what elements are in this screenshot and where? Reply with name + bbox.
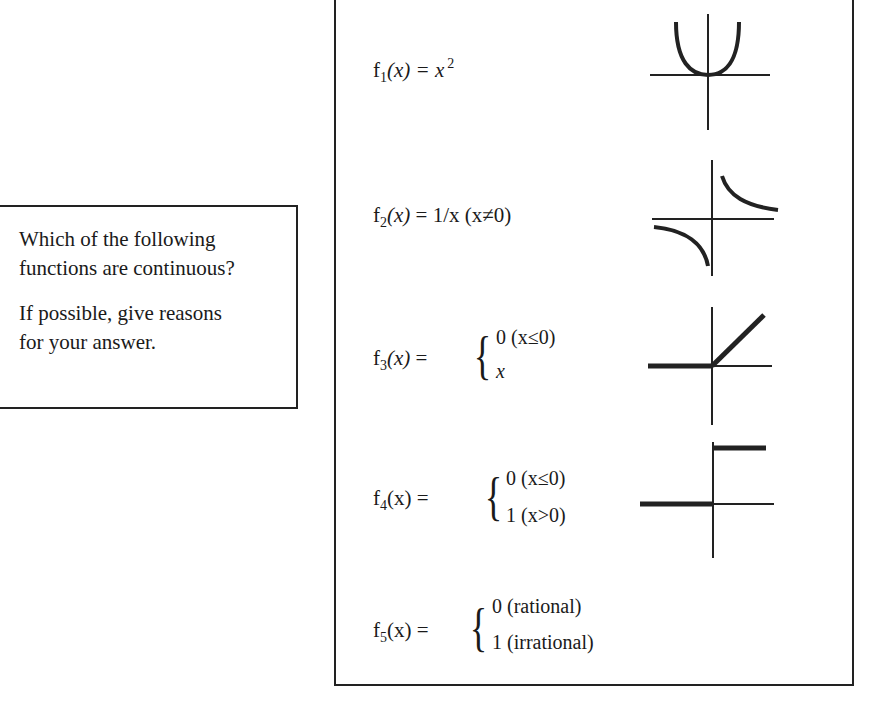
function-arg: (x) xyxy=(387,203,410,227)
function-index: 1 xyxy=(380,70,387,85)
function-name: f xyxy=(373,618,380,642)
instruction-line-2: for your answer. xyxy=(19,330,156,354)
function-arg: (x) xyxy=(387,618,412,642)
question-line-2: functions are continuous? xyxy=(19,256,235,280)
function-index: 3 xyxy=(380,358,387,373)
function-index: 5 xyxy=(380,630,387,645)
function-index: 4 xyxy=(380,498,387,513)
instruction-text: If possible, give reasons for your answe… xyxy=(19,299,222,357)
parabola-graph xyxy=(646,12,776,132)
case-f4-2: 1 (x>0) xyxy=(506,504,566,527)
function-arg: (x) xyxy=(387,58,410,82)
case-f4-1: 0 (x≤0) xyxy=(506,467,565,490)
step-graph xyxy=(636,438,786,563)
question-text: Which of the following functions are con… xyxy=(19,225,235,283)
function-arg: (x) xyxy=(387,486,412,510)
case-f5-2: 1 (irrational) xyxy=(492,631,594,654)
function-index: 2 xyxy=(380,215,387,230)
function-name: f xyxy=(373,58,380,82)
function-f2: f2(x) = 1/x (x≠0) xyxy=(373,203,511,228)
case-f5-1: 0 (rational) xyxy=(492,595,581,618)
function-rhs: = xyxy=(417,618,429,642)
question-box: Which of the following functions are con… xyxy=(0,205,298,409)
function-f5: f5(x) = xyxy=(373,618,429,643)
function-rhs: = x xyxy=(416,58,445,82)
function-rhs: = 1/x (x≠0) xyxy=(416,203,512,227)
hyperbola-graph xyxy=(646,158,786,278)
function-name: f xyxy=(373,346,380,370)
function-name: f xyxy=(373,203,380,227)
function-f1: f1(x) = x2 xyxy=(373,58,454,83)
functions-box: f1(x) = x2 f2(x) = 1/x (x≠0) f3(x) = { 0… xyxy=(334,0,854,686)
function-f4: f4(x) = xyxy=(373,486,429,511)
function-rhs: = xyxy=(416,346,428,370)
case-f3-1: 0 (x≤0) xyxy=(496,326,555,349)
function-name: f xyxy=(373,486,380,510)
question-line-1: Which of the following xyxy=(19,227,216,251)
brace-f3: { xyxy=(474,330,491,382)
function-f3: f3(x) = xyxy=(373,346,427,371)
brace-f4: { xyxy=(485,471,502,523)
case-f3-2: x xyxy=(496,360,505,383)
function-power: 2 xyxy=(447,56,454,71)
ramp-graph xyxy=(646,303,786,428)
function-rhs: = xyxy=(417,486,429,510)
function-arg: (x) xyxy=(387,346,410,370)
brace-f5: { xyxy=(470,602,487,654)
instruction-line-1: If possible, give reasons xyxy=(19,301,222,325)
